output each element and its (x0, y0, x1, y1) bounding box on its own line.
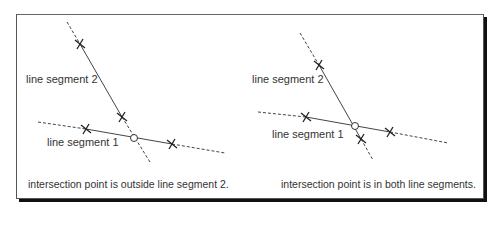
left-label-segment-2: line segment 2 (26, 73, 98, 85)
right-label-segment-1: line segment 1 (272, 128, 344, 140)
right-caption: intersection point is in both line segme… (281, 178, 476, 190)
right-intersection-point (352, 123, 359, 130)
left-label-segment-1: line segment 1 (47, 136, 119, 148)
right-line-2 (300, 33, 373, 160)
left-caption: intersection point is outside line segme… (28, 178, 229, 190)
left-intersection-point (131, 135, 138, 142)
endpoint-markers (75, 39, 395, 149)
right-label-segment-2: line segment 2 (252, 73, 324, 85)
